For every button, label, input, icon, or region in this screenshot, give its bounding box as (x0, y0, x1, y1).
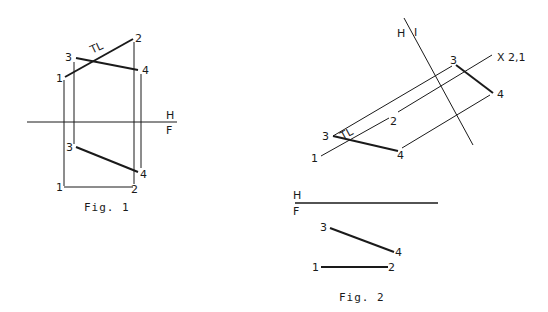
line-3-4-top-fig1 (76, 58, 138, 70)
front-point-4-fig2: 4 (395, 246, 402, 259)
drawing-canvas: H F TL 1 2 3 4 3 4 1 2 Fig. 1 H I X 2,1 … (0, 0, 548, 312)
fold-label-h-fig2: H (293, 189, 301, 202)
front-point-1-fig2: 1 (312, 261, 319, 274)
top-point-1-fig1: 1 (56, 72, 63, 85)
line-3-4-front-fig1 (76, 147, 138, 172)
top-point-3-fig2: 3 (322, 130, 329, 143)
aux-point-3-fig2: 3 (450, 54, 457, 67)
top-point-4-fig2: 4 (397, 149, 404, 162)
figure-2: H I X 2,1 1 2 3 4 TL 3 4 H F 3 4 1 2 Fig… (293, 18, 526, 304)
line-1-2-top-fig2 (321, 118, 389, 156)
figure-caption-1: Fig. 1 (84, 201, 130, 214)
front-point-4-fig1: 4 (140, 168, 147, 181)
fold-label-f-fig2: F (293, 205, 299, 218)
front-point-2-fig1: 2 (131, 183, 138, 196)
aux-fold-label-i: I (414, 26, 417, 39)
aux-point-4-fig2: 4 (497, 88, 504, 101)
top-point-2-fig2: 2 (390, 115, 397, 128)
aux-fold-label-h: H (397, 27, 405, 40)
top-point-1-fig2: 1 (311, 152, 318, 165)
tl-label-fig1: TL (87, 39, 106, 57)
fold-label-h-fig1: H (166, 109, 174, 122)
line-3-4-aux-fig2 (456, 65, 493, 93)
projector-2-1-fig2 (398, 55, 492, 112)
front-point-1-fig1: 1 (56, 181, 63, 194)
point-view-label: X 2,1 (497, 51, 526, 64)
front-point-3-fig2: 3 (320, 221, 327, 234)
front-point-3-fig1: 3 (66, 141, 73, 154)
fold-label-f-fig1: F (166, 124, 172, 137)
top-point-4-fig1: 4 (142, 64, 149, 77)
top-point-2-fig1: 2 (135, 32, 142, 45)
line-3-4-front-fig2 (330, 228, 394, 252)
front-point-2-fig2: 2 (388, 261, 395, 274)
figure-caption-2: Fig. 2 (339, 291, 385, 304)
projector-4-fig2 (402, 95, 490, 148)
top-point-3-fig1: 3 (65, 51, 72, 64)
figure-1: H F TL 1 2 3 4 3 4 1 2 Fig. 1 (27, 32, 177, 214)
